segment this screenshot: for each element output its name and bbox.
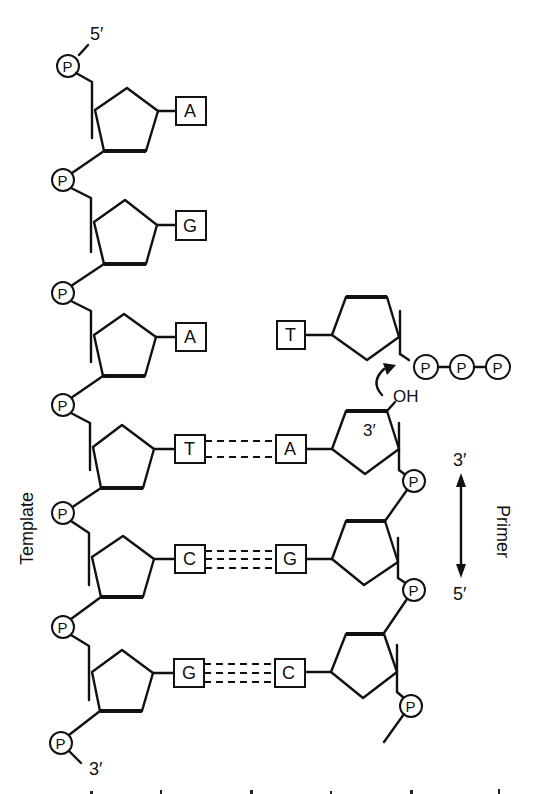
- template-5prime-tail: [79, 45, 88, 55]
- phosphate-label: P: [56, 735, 66, 752]
- primer-direction-arrow: 3′ 5′ Primer: [453, 450, 513, 604]
- primer-5prime-tail: [384, 714, 404, 742]
- cropped-caption-fragments: [90, 789, 500, 794]
- template-nucleotide-4: P T: [52, 394, 205, 508]
- base-label: A: [184, 101, 196, 121]
- base-label: T: [184, 439, 195, 459]
- template-nucleotide-6: P G: [52, 616, 204, 735]
- phosphate-label: P: [457, 359, 467, 376]
- base-label: G: [283, 549, 297, 569]
- sugar-pentagon: [92, 536, 154, 597]
- template-3prime-tail: [69, 751, 81, 763]
- template-nucleotide-2: P G: [52, 169, 206, 286]
- template-label: Template: [17, 492, 37, 565]
- sugar-pentagon: [331, 634, 397, 698]
- sugar-pentagon: [94, 314, 156, 376]
- sugar-link: [76, 73, 92, 138]
- base-label: C: [282, 663, 295, 683]
- primer-3prime-label: 3′: [453, 450, 467, 470]
- primer-3prime-sugar-label: 3′: [363, 421, 376, 440]
- primer-strand: A OH 3′ P G P: [275, 387, 425, 742]
- primer-nucleotide-1: A OH 3′ P: [276, 387, 425, 521]
- phosphate-label: P: [63, 58, 73, 75]
- sugar-pentagon: [92, 650, 153, 711]
- arrow-up-icon: [456, 473, 466, 487]
- arrow-down-icon: [456, 564, 466, 578]
- template-strand: 5′ P A P G P: [50, 24, 206, 779]
- template-5prime-label: 5′: [90, 24, 104, 44]
- sugar-pentagon: [95, 88, 158, 151]
- sugar-pentagon: [332, 297, 399, 360]
- phosphate-label: P: [406, 698, 416, 715]
- base-label: A: [284, 439, 296, 459]
- phosphate-label: P: [58, 285, 68, 302]
- phosphate-label: P: [58, 397, 68, 414]
- primer-nucleotide-2: G P: [276, 521, 425, 633]
- phosphate-label: P: [58, 619, 68, 636]
- dna-replication-diagram: 5′ P A P G P: [0, 0, 534, 794]
- phosphate-label: P: [421, 359, 431, 376]
- base-label: G: [183, 216, 197, 236]
- sugar-pentagon: [94, 200, 157, 264]
- base-label: A: [184, 327, 196, 347]
- sugar-pentagon: [93, 425, 154, 488]
- phosphate-label: P: [409, 473, 419, 490]
- primer-nucleotide-3: C P: [275, 634, 422, 742]
- template-3prime-label: 3′: [89, 759, 103, 779]
- primer-5prime-label: 5′: [453, 584, 467, 604]
- hydroxyl-label: OH: [393, 387, 419, 406]
- template-nucleotide-3: P A: [52, 282, 206, 398]
- template-nucleotide-1: P A: [57, 55, 206, 173]
- base-label: G: [182, 663, 196, 683]
- incoming-base-label: T: [285, 325, 296, 345]
- hydrogen-bonds: [204, 441, 276, 682]
- phosphate-label: P: [58, 505, 68, 522]
- base-label: C: [183, 549, 196, 569]
- template-nucleotide-5: P C: [52, 502, 205, 619]
- phosphate-label: P: [58, 172, 68, 189]
- primer-label: Primer: [493, 505, 513, 558]
- phosphate-label: P: [493, 359, 503, 376]
- phosphate-label: P: [409, 582, 419, 599]
- sugar-pentagon: [332, 521, 398, 585]
